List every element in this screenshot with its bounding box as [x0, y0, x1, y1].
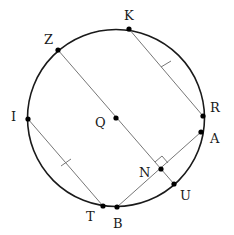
- label-Z: Z: [44, 32, 53, 47]
- point-U: [171, 181, 176, 186]
- point-I: [25, 116, 30, 121]
- point-T: [100, 203, 105, 208]
- point-A: [198, 129, 203, 134]
- tick-mark-IT: [61, 159, 71, 166]
- point-R: [200, 113, 205, 118]
- label-B: B: [113, 216, 123, 231]
- label-I: I: [11, 109, 16, 124]
- point-N: [158, 166, 163, 171]
- tick-mark-KR: [161, 61, 171, 67]
- right-angle-marker: [155, 156, 168, 163]
- label-T: T: [86, 209, 95, 224]
- label-Q: Q: [95, 115, 106, 130]
- circle-diagram: Z K R A U B T I Q N: [0, 0, 234, 235]
- label-A: A: [209, 131, 220, 146]
- point-Z: [55, 47, 60, 52]
- point-K: [126, 26, 131, 31]
- points: [25, 26, 205, 209]
- label-K: K: [124, 8, 134, 23]
- label-R: R: [210, 100, 221, 115]
- point-Q: [113, 115, 118, 120]
- label-U: U: [180, 188, 191, 203]
- label-N: N: [139, 165, 150, 180]
- point-B: [114, 204, 119, 209]
